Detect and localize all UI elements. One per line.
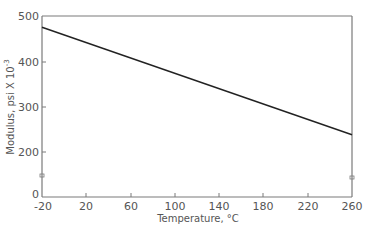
x-tick-label: 140 bbox=[209, 200, 230, 213]
y-axis-title-group: Modulus, psi X 10-3 bbox=[3, 59, 16, 154]
y-tick-label: 300 bbox=[18, 101, 39, 114]
y-tick-label: 500 bbox=[18, 10, 39, 23]
y-axis-title: Modulus, psi X 10-3 bbox=[3, 59, 16, 154]
x-tick-label: 100 bbox=[165, 200, 186, 213]
x-tick-label: -20 bbox=[34, 200, 52, 213]
y-axis-title-exponent: -3 bbox=[3, 59, 11, 66]
x-ticks: -20 20 60 100 140 180 220 260 bbox=[34, 193, 362, 213]
y-axis-title-main: Modulus, psi X 10 bbox=[5, 66, 16, 154]
x-axis-title: Temperature, °C bbox=[156, 213, 239, 224]
y-tick-label: 200 bbox=[18, 146, 39, 159]
x-tick-label: 180 bbox=[253, 200, 274, 213]
axis-break-markers bbox=[40, 174, 354, 179]
x-tick-label: 20 bbox=[79, 200, 93, 213]
modulus-line bbox=[42, 27, 352, 135]
y-tick-label: 400 bbox=[18, 56, 39, 69]
x-tick-label: 60 bbox=[124, 200, 138, 213]
x-tick-label: 260 bbox=[342, 200, 363, 213]
chart-canvas: 500 400 300 200 0 -20 20 60 100 140 180 … bbox=[0, 0, 367, 229]
x-tick-label: 220 bbox=[298, 200, 319, 213]
